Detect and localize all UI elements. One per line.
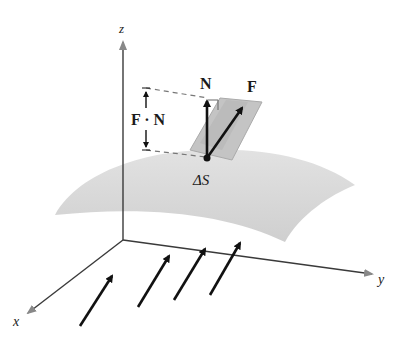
- normal-label: N: [200, 75, 212, 92]
- field-arrow: [138, 256, 169, 307]
- dot-product-label: F · N: [131, 111, 166, 128]
- field-arrow: [80, 276, 112, 326]
- patch-point: [204, 155, 211, 162]
- flux-diagram: z y x N F F · N ΔS: [0, 0, 395, 341]
- z-axis-label: z: [118, 21, 124, 36]
- surface: [55, 150, 355, 242]
- x-axis: [28, 240, 123, 313]
- y-axis-label: y: [376, 272, 385, 287]
- patch-label: ΔS: [192, 172, 210, 188]
- field-label: F: [247, 78, 257, 95]
- field-arrow: [210, 243, 240, 295]
- x-axis-label: x: [12, 314, 20, 329]
- field-arrow: [174, 249, 205, 300]
